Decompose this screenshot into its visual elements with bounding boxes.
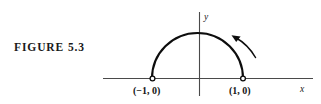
point-label-left: (−1, 0) (133, 85, 160, 97)
endpoint-marker-left (150, 76, 155, 81)
direction-arrow-arc (236, 38, 256, 58)
plot-diagram: y x (−1, 0) (1, 0) (0, 0, 321, 104)
direction-arrow-head (232, 35, 241, 42)
point-label-right: (1, 0) (229, 85, 251, 97)
figure-container: FIGURE 5.3 y x (−1, 0) (1, 0) (0, 0, 321, 104)
endpoint-marker-right (241, 76, 246, 81)
y-axis-label: y (203, 12, 209, 22)
semicircle-curve (152, 33, 243, 78)
x-axis-label: x (299, 84, 305, 94)
